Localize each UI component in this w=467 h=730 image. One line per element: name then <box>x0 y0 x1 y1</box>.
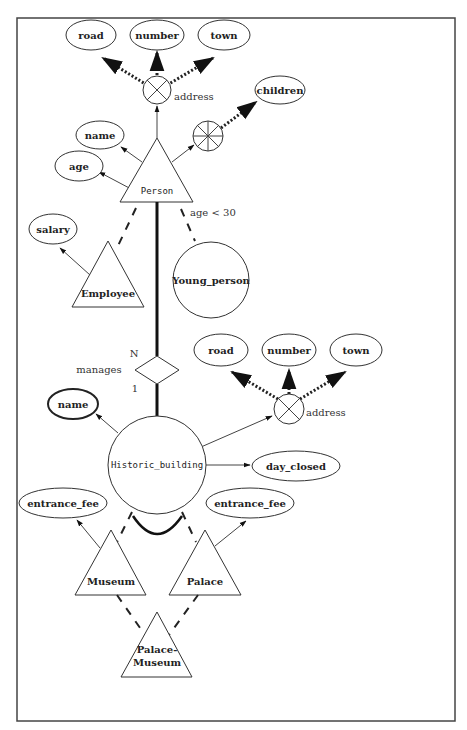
cardinality-n: N <box>130 348 139 359</box>
relationship-manages-group: manages N 1 <box>76 202 179 416</box>
person-children-group: children <box>193 76 305 151</box>
attr-entrance-fee-label: entrance_fee <box>214 498 286 509</box>
attr-number-label: number <box>135 30 179 41</box>
entity-person-label: Person <box>141 186 174 196</box>
attr-address-label: address <box>174 91 214 102</box>
attr-children-label: children <box>257 85 305 96</box>
attr-town-label: town <box>342 345 370 356</box>
attr-age-label: age <box>69 161 89 172</box>
relationship-manages[interactable] <box>135 356 179 384</box>
attr-name-label: name <box>58 399 89 410</box>
person-address-group: road number town address <box>66 20 250 104</box>
cardinality-1: 1 <box>132 383 138 394</box>
entity-museum-label: Museum <box>87 576 136 587</box>
attr-name-label: name <box>85 130 116 141</box>
attr-road-label: road <box>78 30 103 41</box>
attr-road-label: road <box>208 345 233 356</box>
attr-day-closed-label: day_closed <box>266 461 326 472</box>
er-diagram: road number town address children name a… <box>0 0 467 730</box>
entity-employee-group: salary Employee <box>29 208 144 307</box>
predicate-label: age < 30 <box>190 207 236 218</box>
entity-palace-museum-group: Palace- Museum <box>117 595 198 677</box>
entity-palace-museum-label-2: Museum <box>133 657 182 668</box>
entity-palace-label: Palace <box>187 576 223 587</box>
entity-young-person-group: age < 30 Young_person <box>171 207 250 318</box>
attr-town-label: town <box>210 30 238 41</box>
attr-entrance-fee-label: entrance_fee <box>27 498 99 509</box>
entity-palace-museum-label-1: Palace- <box>137 644 178 655</box>
disjointness-arc <box>133 516 182 534</box>
entity-historic-building-label: Historic_building <box>111 460 203 470</box>
attr-address-label: address <box>306 407 346 418</box>
attr-number-label: number <box>267 345 311 356</box>
entity-employee-label: Employee <box>81 288 135 299</box>
entity-person-group: name age Person <box>55 106 194 202</box>
entity-young-person-label: Young_person <box>171 275 250 286</box>
relationship-manages-label: manages <box>76 364 121 375</box>
entity-palace-group: entrance_fee Palace <box>169 488 294 595</box>
attr-salary-label: salary <box>36 224 71 235</box>
building-address-group: road number town address <box>194 334 382 424</box>
